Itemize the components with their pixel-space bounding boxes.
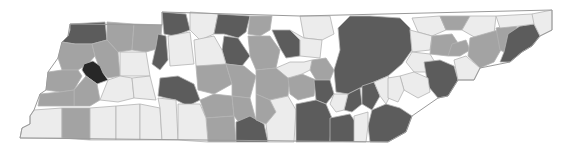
- tennessee-county-map: [0, 0, 570, 156]
- county-sw2: [62, 108, 90, 140]
- county-sw4: [116, 104, 140, 140]
- county-c14: [354, 112, 368, 142]
- county-m17: [206, 116, 236, 142]
- county-c7: [296, 100, 332, 142]
- county-m3: [168, 32, 194, 66]
- county-c4: [288, 74, 316, 100]
- county-c1: [300, 16, 334, 40]
- county-sw3: [90, 106, 116, 140]
- county-m15: [200, 94, 234, 118]
- county-sw5: [140, 104, 162, 140]
- county-w9: [120, 52, 150, 76]
